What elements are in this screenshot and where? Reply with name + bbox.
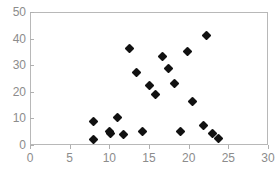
y-tick-label: 10 — [2, 112, 26, 124]
x-tick-mark — [109, 145, 110, 149]
x-tick-mark — [149, 145, 150, 149]
y-tick-label: 50 — [2, 6, 26, 18]
y-tick-mark — [30, 39, 34, 40]
y-tick-mark — [30, 12, 34, 13]
x-tick-mark — [30, 145, 31, 149]
y-tick-mark — [30, 65, 34, 66]
x-tick-mark — [70, 145, 71, 149]
x-tick-label: 30 — [256, 152, 279, 164]
x-tick-mark — [228, 145, 229, 149]
y-tick-label: 20 — [2, 86, 26, 98]
plot-area-frame — [30, 12, 268, 145]
scatter-chart: 01020304050 051015202530 — [0, 0, 279, 180]
x-tick-label: 25 — [216, 152, 240, 164]
y-tick-label: 40 — [2, 33, 26, 45]
x-tick-mark — [268, 145, 269, 149]
x-tick-label: 10 — [97, 152, 121, 164]
y-tick-mark — [30, 92, 34, 93]
x-tick-label: 20 — [177, 152, 201, 164]
y-tick-label: 0 — [2, 139, 26, 151]
x-tick-label: 5 — [58, 152, 82, 164]
x-tick-mark — [189, 145, 190, 149]
y-tick-label: 30 — [2, 59, 26, 71]
y-tick-mark — [30, 118, 34, 119]
x-tick-label: 15 — [137, 152, 161, 164]
x-tick-label: 0 — [18, 152, 42, 164]
